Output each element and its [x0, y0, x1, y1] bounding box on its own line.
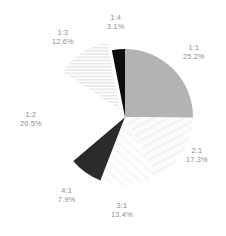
pie-label-2-1: 2:1 17.3% — [186, 146, 208, 165]
pie-label-4-1: 4:1 7.9% — [58, 186, 75, 205]
pie-label-4-1-percent: 7.9% — [58, 195, 75, 204]
pie-label-1-1-name: 1:1 — [183, 43, 205, 52]
pie-label-1-4-name: 1:4 — [107, 13, 124, 22]
pie-label-1-3: 1:3 12.6% — [52, 28, 74, 47]
pie-label-1-1-percent: 25.2% — [183, 52, 205, 61]
pie-label-3-1-name: 3:1 — [111, 201, 133, 210]
pie-label-1-2: 1:2 20.5% — [20, 110, 42, 129]
pie-label-1-3-name: 1:3 — [52, 28, 74, 37]
pie-label-2-1-name: 2:1 — [186, 146, 208, 155]
pie-label-1-3-percent: 12.6% — [52, 37, 74, 46]
pie-label-1-2-name: 1:2 — [20, 110, 42, 119]
pie-chart: 1:1 25.2% 2:1 17.3% 3:1 13.4% 4:1 7.9% 1… — [0, 0, 226, 236]
pie-label-2-1-percent: 17.3% — [186, 155, 208, 164]
pie-slices — [57, 43, 193, 185]
pie-label-3-1: 3:1 13.4% — [111, 201, 133, 220]
pie-label-1-1: 1:1 25.2% — [183, 43, 205, 62]
pie-label-4-1-name: 4:1 — [58, 186, 75, 195]
pie-label-1-4: 1:4 3.1% — [107, 13, 124, 32]
pie-label-3-1-percent: 13.4% — [111, 210, 133, 219]
pie-label-1-4-percent: 3.1% — [107, 22, 124, 31]
pie-label-1-2-percent: 20.5% — [20, 119, 42, 128]
